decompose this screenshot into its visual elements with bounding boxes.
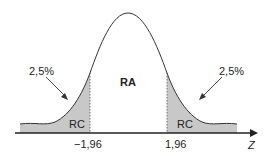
left-arrowhead-icon (61, 93, 68, 100)
right-critical-region-label: RC (177, 118, 193, 130)
acceptance-region-label: RA (120, 76, 136, 88)
right-pointer-arrow (203, 77, 222, 96)
right-critical-value: 1,96 (165, 138, 186, 150)
axis-arrow-icon (250, 129, 258, 137)
left-tail-percent: 2,5% (29, 65, 54, 77)
left-critical-region-label: RC (69, 118, 85, 130)
axis-label-z: Z (248, 139, 255, 151)
left-pointer-arrow (46, 77, 65, 96)
right-tail-percent: 2,5% (219, 65, 244, 77)
left-critical-value: −1,96 (74, 138, 102, 150)
